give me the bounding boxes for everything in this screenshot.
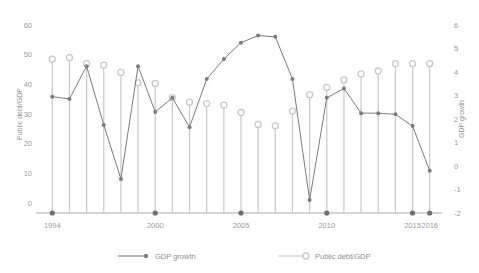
left-axis-tick-label: 60 bbox=[24, 21, 32, 30]
public-debt-point bbox=[152, 80, 158, 86]
x-axis-tick-label: 2000 bbox=[147, 221, 164, 230]
public-debt-point bbox=[101, 62, 107, 68]
left-axis-tick-label: 0 bbox=[28, 199, 32, 208]
gdp-growth-point bbox=[153, 110, 157, 114]
left-axis-tick-label: 50 bbox=[24, 50, 32, 59]
right-axis-tick-label: 6 bbox=[454, 21, 458, 30]
legend-marker-2 bbox=[303, 253, 309, 259]
x-axis-tick-label: 2010 bbox=[318, 221, 335, 230]
public-debt-point bbox=[324, 84, 330, 90]
left-axis-tick-label: 20 bbox=[24, 139, 32, 148]
public-debt-point bbox=[392, 61, 398, 67]
x-axis-tick-marker bbox=[153, 210, 158, 215]
gdp-growth-point bbox=[325, 96, 329, 100]
gdp-growth-point bbox=[411, 124, 415, 128]
chart-canvas: 0102030405060 -2-10123456 19942000200520… bbox=[0, 0, 479, 273]
gdp-growth-point bbox=[85, 64, 89, 68]
public-debt-point bbox=[238, 110, 244, 116]
gdp-growth-point bbox=[222, 57, 226, 61]
public-debt-point bbox=[375, 68, 381, 74]
right-axis-tick-label: 5 bbox=[454, 44, 458, 53]
legend-label-2: Public debt/GDP bbox=[315, 252, 370, 261]
gdp-growth-point bbox=[359, 111, 363, 115]
gdp-growth-point bbox=[205, 77, 209, 81]
public-debt-point bbox=[358, 71, 364, 77]
gdp-growth-point bbox=[393, 112, 397, 116]
gdp-growth-point bbox=[136, 64, 140, 68]
public-debt-point bbox=[289, 108, 295, 114]
public-debt-point bbox=[272, 123, 278, 129]
gdp-growth-point bbox=[50, 95, 54, 99]
gdp-growth-point bbox=[119, 177, 123, 181]
public-debt-point bbox=[221, 102, 227, 108]
right-axis-tick-label: 1 bbox=[454, 138, 458, 147]
right-axis-tick-label: 3 bbox=[454, 91, 458, 100]
x-axis-tick-label: 1994 bbox=[44, 221, 61, 230]
x-axis-tick-marker bbox=[410, 210, 415, 215]
right-axis-tick-label: 4 bbox=[454, 68, 458, 77]
x-axis-tick-label: 2005 bbox=[233, 221, 250, 230]
left-axis-tick-label: 30 bbox=[24, 110, 32, 119]
public-debt-point bbox=[410, 61, 416, 67]
x-axis-tick-label: 2016 bbox=[421, 221, 438, 230]
public-debt-point bbox=[204, 101, 210, 107]
public-debt-point bbox=[341, 77, 347, 83]
x-axis-tick-marker bbox=[427, 210, 432, 215]
x-axis-tick-marker bbox=[238, 210, 243, 215]
public-debt-point bbox=[427, 61, 433, 67]
legend-marker-1 bbox=[144, 254, 148, 258]
public-debt-point bbox=[187, 99, 193, 105]
left-axis-tick-label: 40 bbox=[24, 80, 32, 89]
public-debt-point bbox=[118, 69, 124, 75]
gdp-growth-point bbox=[308, 198, 312, 202]
x-axis-tick-marker bbox=[50, 210, 55, 215]
right-axis-title: GDP growth bbox=[458, 100, 466, 138]
right-axis-tick-label: -2 bbox=[454, 209, 461, 218]
right-axis-tick-label: -1 bbox=[454, 185, 461, 194]
gdp-growth-point bbox=[102, 123, 106, 127]
left-axis-ticks-layer: 0102030405060 bbox=[24, 21, 32, 208]
lollipop-stems-layer bbox=[52, 58, 429, 213]
gdp-growth-point bbox=[376, 111, 380, 115]
x-axis-tick-marker bbox=[324, 210, 329, 215]
chart-legend: GDP growthPublic debt/GDP bbox=[118, 252, 370, 261]
gdp-growth-point bbox=[188, 125, 192, 129]
gdp-growth-point bbox=[342, 86, 346, 90]
left-axis-tick-label: 10 bbox=[24, 169, 32, 178]
gdp-growth-point bbox=[170, 96, 174, 100]
gdp-growth-point bbox=[290, 77, 294, 81]
left-axis-title: Public debt/GDP bbox=[16, 88, 23, 140]
public-debt-point bbox=[66, 55, 72, 61]
chart-figure: 0102030405060 -2-10123456 19942000200520… bbox=[0, 0, 479, 273]
public-debt-point bbox=[49, 56, 55, 62]
public-debt-point bbox=[255, 121, 261, 127]
right-axis-tick-label: 0 bbox=[454, 162, 458, 171]
gdp-growth-point bbox=[428, 169, 432, 173]
gdp-growth-point bbox=[67, 97, 71, 101]
gdp-growth-point bbox=[273, 35, 277, 39]
x-axis-tick-label: 2015 bbox=[404, 221, 421, 230]
public-debt-point bbox=[307, 92, 313, 98]
gdp-growth-point bbox=[256, 34, 260, 38]
gdp-growth-point bbox=[239, 41, 243, 45]
legend-label-1: GDP growth bbox=[155, 252, 196, 261]
